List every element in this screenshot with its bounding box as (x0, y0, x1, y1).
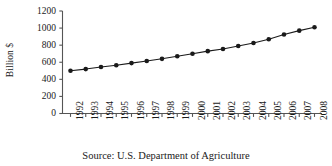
x-axis-tick-label: 2002 (227, 101, 237, 120)
x-axis-tick-label: 1996 (136, 101, 146, 120)
x-axis-tick-label: 2003 (242, 101, 252, 120)
x-axis-tick-label: 2006 (288, 101, 298, 120)
x-axis-tick-label: 1997 (151, 101, 161, 120)
x-axis-tick-label: 1993 (90, 101, 100, 120)
chart-source-caption: Source: U.S. Department of Agriculture (0, 149, 332, 162)
x-axis-tick-label: 1992 (75, 101, 85, 120)
x-axis-tick-label: 2008 (319, 101, 329, 120)
x-axis-tick-label: 1998 (166, 101, 176, 120)
x-axis-tick-label: 2001 (212, 101, 222, 120)
x-axis-tick-label: 1999 (181, 101, 191, 120)
x-axis-tick-label: 1994 (105, 101, 115, 120)
x-axis-tick-label: 1995 (120, 101, 130, 120)
x-axis-tick-label: 2004 (258, 101, 268, 120)
x-axis-tick-label: 2007 (303, 101, 313, 120)
x-axis-tick-label: 2000 (197, 101, 207, 120)
x-axis-tick-label: 2005 (273, 101, 283, 120)
x-axis-tick-labels: 1992199319941995199619971998199920002001… (0, 0, 332, 166)
chart-figure: Billion $ 020040060080010001200 19921993… (0, 0, 332, 166)
